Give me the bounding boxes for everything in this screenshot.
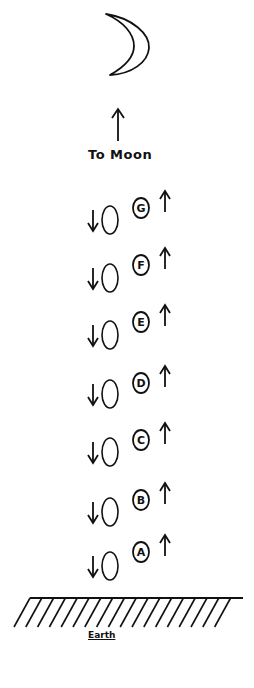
molecule-letter: A	[137, 546, 146, 559]
labeled-molecule: G	[133, 198, 149, 218]
molecule-row: F	[88, 248, 170, 292]
molecule-row: C	[88, 423, 170, 466]
labeled-molecule: D	[133, 373, 149, 393]
labeled-molecule: B	[133, 490, 149, 510]
diagram-canvas: GFEDCBA	[0, 0, 254, 688]
molecule-letter: F	[137, 259, 145, 272]
down-arrow-icon	[88, 268, 98, 289]
up-arrow-icon	[160, 483, 170, 504]
to-moon-label: To Moon	[88, 147, 152, 162]
plain-molecule	[102, 380, 118, 408]
labeled-molecule: F	[133, 255, 149, 275]
down-arrow-icon	[88, 442, 98, 463]
molecule-letter: G	[136, 202, 145, 215]
down-arrow-icon	[88, 384, 98, 405]
down-arrow-icon	[88, 325, 98, 346]
up-arrow-icon	[160, 305, 170, 326]
plain-molecule	[102, 264, 118, 292]
plain-molecule	[102, 206, 118, 234]
molecule-row: A	[88, 535, 170, 580]
molecule-row: E	[88, 305, 170, 349]
plain-molecule	[102, 438, 118, 466]
labeled-molecule: E	[133, 312, 149, 332]
plain-molecule	[102, 552, 118, 580]
plain-molecule	[102, 498, 118, 526]
plain-molecule	[102, 321, 118, 349]
down-arrow-icon	[88, 210, 98, 231]
up-arrow-icon	[160, 191, 170, 212]
moon-icon	[106, 14, 149, 75]
rows-group: GFEDCBA	[88, 191, 170, 580]
labeled-molecule: A	[133, 542, 149, 562]
up-arrow-to-moon-icon	[112, 109, 124, 141]
down-arrow-icon	[88, 502, 98, 523]
up-arrow-icon	[160, 535, 170, 556]
molecule-letter: B	[137, 494, 145, 507]
up-arrow-icon	[160, 248, 170, 269]
molecule-row: D	[88, 366, 170, 408]
molecule-row: G	[88, 191, 170, 234]
labeled-molecule: C	[133, 430, 149, 450]
up-arrow-icon	[160, 423, 170, 444]
molecule-letter: C	[137, 434, 145, 447]
earth-label: Earth	[88, 630, 115, 640]
molecule-letter: E	[137, 316, 145, 329]
molecule-row: B	[88, 483, 170, 526]
down-arrow-icon	[88, 556, 98, 577]
up-arrow-icon	[160, 366, 170, 387]
ground-hatch	[14, 598, 243, 627]
molecule-letter: D	[136, 377, 145, 390]
